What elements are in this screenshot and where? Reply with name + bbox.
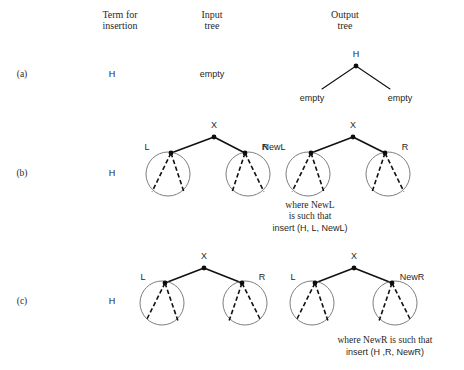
input-header-line1: Input bbox=[201, 9, 222, 20]
output-tree-b-left-edge bbox=[311, 137, 353, 153]
term-a: H bbox=[109, 69, 116, 79]
input-tree-b-right-subtree-left-branch bbox=[232, 153, 245, 192]
output-a-root-node bbox=[354, 64, 359, 69]
output-tree-b-right-subtree-apex-node bbox=[383, 151, 388, 156]
term-header-line1: Term for bbox=[102, 9, 138, 20]
output-tree-c-left-edge bbox=[315, 268, 354, 283]
output-header: Outputtree bbox=[331, 9, 359, 31]
output-tree-c-left-subtree-apex-node bbox=[313, 281, 318, 286]
input-tree-c-right-subtree-right-branch bbox=[242, 283, 261, 321]
term-c: H bbox=[109, 296, 116, 306]
input-tree-c-left-edge bbox=[165, 268, 204, 283]
input-tree-c-right-subtree: R bbox=[223, 272, 267, 325]
output-tree-b-left-subtree-right-branch bbox=[311, 153, 324, 192]
input-tree-c-left-subtree-left-branch bbox=[146, 283, 165, 321]
input-tree-b-right-subtree-right-branch bbox=[245, 153, 264, 192]
input-tree-c-right-subtree-left-branch bbox=[229, 283, 242, 321]
term-header-line2: insertion bbox=[103, 20, 138, 31]
input-tree-b-root-label: X bbox=[211, 120, 217, 130]
output-a-root-label: H bbox=[353, 49, 360, 59]
output-tree-b-root-label: X bbox=[350, 120, 356, 130]
output-tree-b-left-subtree-apex-node bbox=[309, 151, 314, 156]
output-header-line1: Output bbox=[331, 9, 359, 20]
output-tree-b-right-edge bbox=[353, 137, 385, 153]
caption-b-line3: insert (H, L, NewL) bbox=[272, 223, 347, 233]
output-tree-b-right-subtree-right-branch bbox=[385, 153, 404, 192]
input-tree-b-left-subtree-apex-node bbox=[169, 151, 174, 156]
input-tree-c-right-subtree-label: R bbox=[259, 272, 266, 282]
diagram-canvas: Term forinsertionInputtreeOutputtree(a)H… bbox=[0, 0, 464, 370]
output-header-line2: tree bbox=[338, 20, 354, 31]
output-tree-c-right-subtree: NewR bbox=[373, 272, 425, 325]
output-a-left-leaf-label: empty bbox=[300, 93, 325, 103]
input-tree-c-right-edge bbox=[204, 268, 242, 283]
output-tree-c-right-subtree-left-branch bbox=[379, 283, 392, 321]
output-tree-c-left-subtree-left-branch bbox=[296, 283, 315, 321]
input-tree-c-left-subtree: L bbox=[140, 272, 184, 325]
output-a-right-leaf-label: empty bbox=[388, 93, 413, 103]
input-tree-c-root-node bbox=[202, 266, 207, 271]
output-a-left-edge bbox=[322, 66, 356, 89]
input-tree-b-right-subtree-apex-node bbox=[243, 151, 248, 156]
input-tree-b-root-node bbox=[212, 135, 217, 140]
caption-c-line2: insert (H ,R, NewR) bbox=[346, 347, 424, 357]
output-tree-c-left-subtree-label: L bbox=[290, 272, 295, 282]
input-empty-a: empty bbox=[200, 69, 225, 79]
input-tree-b-left-edge bbox=[171, 137, 214, 153]
output-tree-c-root-node bbox=[352, 266, 357, 271]
input-tree-c-left-subtree-label: L bbox=[140, 272, 145, 282]
output-tree-c-right-subtree-right-branch bbox=[392, 283, 411, 321]
output-tree-c-left-subtree-right-branch bbox=[315, 283, 328, 321]
output-a-right-edge bbox=[356, 66, 390, 89]
term-header: Term forinsertion bbox=[102, 9, 138, 31]
input-tree-b-left-subtree: L bbox=[144, 142, 190, 196]
input-tree-c-right-subtree-apex-node bbox=[240, 281, 245, 286]
output-tree-c-right-edge bbox=[354, 268, 392, 283]
input-tree-b-left-subtree-label: L bbox=[144, 142, 149, 152]
row-label-c: (c) bbox=[17, 296, 28, 307]
input-header: Inputtree bbox=[201, 9, 222, 31]
output-tree-b-left-subtree-left-branch bbox=[292, 153, 311, 192]
output-tree-c-right-subtree-label: NewR bbox=[400, 272, 425, 282]
caption-b-line1: where NewL bbox=[285, 200, 335, 210]
input-tree-c-root-label: X bbox=[201, 251, 207, 261]
output-tree-b-right-subtree: R bbox=[366, 142, 410, 196]
output-tree-c-left-subtree: L bbox=[290, 272, 334, 325]
output-tree-b-left-subtree-label: NewL bbox=[262, 142, 285, 152]
output-tree-b-right-subtree-left-branch bbox=[372, 153, 385, 192]
input-tree-b-left-subtree-right-branch bbox=[171, 153, 184, 192]
input-tree-b-left-subtree-left-branch bbox=[152, 153, 171, 192]
input-tree-b-right-edge bbox=[214, 137, 245, 153]
output-tree-c-root-label: X bbox=[351, 251, 357, 261]
input-tree-c-left-subtree-right-branch bbox=[165, 283, 178, 321]
input-tree-c-left-subtree-apex-node bbox=[163, 281, 168, 286]
input-header-line2: tree bbox=[205, 20, 221, 31]
caption-c-line1: where NewR is such that bbox=[338, 335, 433, 345]
caption-b-line2: is such that bbox=[289, 211, 332, 221]
output-tree-b-right-subtree-label: R bbox=[402, 142, 409, 152]
row-label-a: (a) bbox=[17, 69, 28, 80]
output-tree-b-root-node bbox=[351, 135, 356, 140]
output-tree-c-right-subtree-apex-node bbox=[390, 281, 395, 286]
tree-insertion-figure: Term forinsertionInputtreeOutputtree(a)H… bbox=[0, 0, 464, 370]
row-label-b: (b) bbox=[16, 168, 27, 179]
term-b: H bbox=[109, 168, 116, 178]
